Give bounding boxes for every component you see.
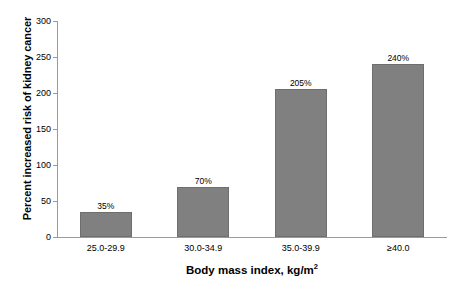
bar-value-label: 70%	[195, 176, 212, 187]
y-axis-tick-mark	[53, 129, 57, 130]
y-axis-tick-mark	[53, 165, 57, 166]
x-axis-category-label: 35.0-39.9	[282, 243, 320, 253]
plot-area: 050100150200250300 35%70%205%240%	[57, 21, 447, 237]
bar-value-label: 35%	[97, 201, 114, 212]
y-axis-tick-mark	[53, 201, 57, 202]
x-axis-category-label: 30.0-34.9	[184, 243, 222, 253]
y-axis-tick-label: 150	[36, 124, 51, 134]
bar	[275, 89, 327, 237]
bar	[177, 187, 229, 237]
y-axis-tick-label: 200	[36, 88, 51, 98]
y-axis-tick-mark	[53, 21, 57, 22]
x-axis-title-text: Body mass index, kg/m	[186, 264, 314, 276]
x-axis-category-label: ≥40.0	[387, 243, 409, 253]
bar-chart: Percent increased risk of kidney cancer …	[0, 0, 454, 287]
x-axis-title: Body mass index, kg/m2	[57, 262, 447, 276]
y-axis-tick-label: 300	[36, 16, 51, 26]
y-axis-tick-label: 100	[36, 160, 51, 170]
x-axis-title-superscript: 2	[314, 262, 318, 271]
y-axis-tick-label: 50	[41, 196, 51, 206]
x-axis-line	[57, 237, 447, 238]
y-axis-tick-label: 0	[46, 232, 51, 242]
bar-value-label: 205%	[290, 78, 312, 89]
y-axis-tick-mark	[53, 237, 57, 238]
x-axis-category-label: 25.0-29.9	[87, 243, 125, 253]
y-axis-tick-mark	[53, 57, 57, 58]
y-axis-tick-mark	[53, 93, 57, 94]
y-axis-tick-label: 250	[36, 52, 51, 62]
y-axis-title: Percent increased risk of kidney cancer	[18, 0, 36, 237]
bar	[372, 64, 424, 237]
bar	[80, 212, 132, 237]
bar-value-label: 240%	[387, 53, 409, 64]
